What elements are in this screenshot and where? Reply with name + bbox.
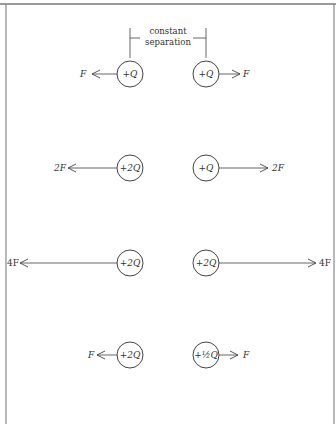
force-label-left: 2F — [53, 163, 67, 173]
row-4: F +2Q +½Q F — [87, 342, 250, 368]
force-label-left: F — [79, 69, 87, 79]
charge-label-left: +Q — [123, 69, 139, 79]
charge-label-right: +½Q — [194, 350, 218, 360]
row-1: F +Q +Q F — [79, 61, 250, 87]
force-label-left: F — [87, 350, 95, 360]
charge-label-left: +2Q — [120, 350, 141, 360]
row-2: 2F +2Q +Q 2F — [53, 155, 285, 181]
separation-bracket: constant separation — [130, 26, 206, 58]
force-label-right: F — [242, 69, 250, 79]
charge-label-right: +2Q — [196, 258, 217, 268]
diagram-frame: constant separation F +Q +Q F 2F +2Q +Q … — [0, 0, 336, 424]
charge-label-left: +2Q — [120, 258, 141, 268]
force-diagram: constant separation F +Q +Q F 2F +2Q +Q … — [0, 0, 336, 424]
charge-label-left: +2Q — [120, 163, 141, 173]
annotation-line2: separation — [145, 37, 191, 47]
force-label-right: 4F — [319, 258, 331, 268]
force-label-right: 2F — [271, 163, 285, 173]
force-label-right: F — [242, 350, 250, 360]
charge-label-right: +Q — [199, 163, 215, 173]
annotation-line1: constant — [149, 26, 187, 36]
row-3: 4F +2Q +2Q 4F — [7, 250, 331, 276]
force-label-left: 4F — [7, 258, 19, 268]
border — [0, 4, 336, 424]
charge-label-right: +Q — [199, 69, 215, 79]
